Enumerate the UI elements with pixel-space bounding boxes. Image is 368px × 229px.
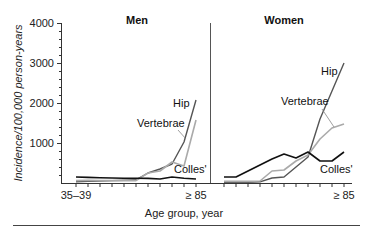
x-tick-women-last: ≥ 85 [333, 189, 354, 201]
women-vertebrae-leader [322, 109, 334, 127]
y-axis [57, 23, 62, 183]
y-tick-3000: 3000 [30, 57, 54, 69]
x-tick-men-first: 35–39 [61, 189, 92, 201]
panel-title-women: Women [264, 14, 304, 26]
men-colles-line [76, 177, 196, 179]
men-hip-label: Hip [173, 97, 190, 109]
y-tick-2000: 2000 [30, 97, 54, 109]
y-tick-4000: 4000 [30, 17, 54, 29]
women-hip-label: Hip [321, 65, 338, 77]
fracture-incidence-chart: Incidence/100,000 person-years 4000 3000… [0, 0, 368, 229]
panel-title-men: Men [126, 14, 148, 26]
men-vertebrae-leader [178, 130, 186, 139]
y-tick-1000: 1000 [30, 137, 54, 149]
men-vertebrae-label: Vertebrae [137, 117, 185, 129]
y-axis-title: Incidence/100,000 person-years [12, 24, 24, 182]
women-colles-label: Colles' [320, 163, 353, 175]
x-axis [61, 183, 352, 187]
women-vertebrae-label: Vertebrae [281, 95, 329, 107]
men-colles-label: Colles' [174, 163, 207, 175]
x-axis-title: Age group, year [145, 207, 224, 219]
x-tick-men-last: ≥ 85 [185, 189, 206, 201]
